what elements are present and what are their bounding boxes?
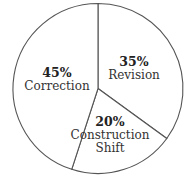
slice-label: Correction	[24, 79, 90, 93]
slice-label: Construction	[71, 128, 150, 142]
slice-percent: 35%	[119, 54, 148, 69]
pie-chart: 35%Revision20%ConstructionShift45%Correc…	[0, 0, 188, 192]
slice-label: Shift	[95, 141, 124, 155]
slice-label: Revision	[108, 68, 160, 82]
slice-percent: 20%	[95, 114, 124, 129]
slice-percent: 45%	[42, 65, 71, 80]
